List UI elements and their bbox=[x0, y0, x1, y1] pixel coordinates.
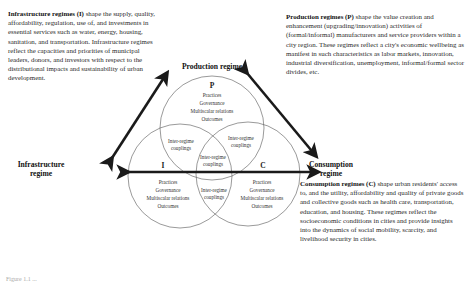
overlap-p-i: Inter-regime couplings bbox=[168, 138, 195, 151]
svg-text:Inter-regime: Inter-regime bbox=[168, 138, 195, 144]
overlap-i-p-c: Inter-regime couplings bbox=[200, 154, 227, 167]
svg-text:couplings: couplings bbox=[204, 194, 224, 200]
consumption-regime-label: Consumption regime bbox=[296, 160, 366, 178]
consumption-description: Consumption regimes (C) shape urban resi… bbox=[300, 179, 465, 243]
svg-text:couplings: couplings bbox=[231, 142, 251, 148]
svg-text:Practices: Practices bbox=[253, 179, 272, 185]
figure-caption: Figure 1.1 ... bbox=[6, 276, 37, 282]
svg-text:couplings: couplings bbox=[203, 161, 223, 167]
infrastructure-contents: Practices Governance Multiscalar relatio… bbox=[147, 179, 190, 209]
svg-text:Outcomes: Outcomes bbox=[251, 203, 272, 209]
svg-text:Governance: Governance bbox=[249, 187, 275, 193]
svg-text:Multiscalar relations: Multiscalar relations bbox=[191, 108, 234, 114]
letter-c: C bbox=[260, 161, 265, 170]
svg-text:Inter-regime: Inter-regime bbox=[201, 187, 228, 193]
overlap-p-c: Inter-regime couplings bbox=[228, 135, 255, 148]
svg-text:Practices: Practices bbox=[203, 92, 222, 98]
letter-i: I bbox=[162, 161, 165, 170]
overlap-i-c: Inter-regime couplings bbox=[201, 187, 228, 200]
svg-text:Multiscalar relations: Multiscalar relations bbox=[147, 195, 190, 201]
arrow-infra-production bbox=[112, 73, 167, 158]
svg-text:Outcomes: Outcomes bbox=[201, 116, 222, 122]
consumption-contents: Practices Governance Multiscalar relatio… bbox=[241, 179, 284, 209]
svg-text:Outcomes: Outcomes bbox=[157, 203, 178, 209]
production-contents: Practices Governance Multiscalar relatio… bbox=[191, 92, 234, 122]
infrastructure-description: Infrastructure regimes (I) shape the sup… bbox=[8, 9, 158, 83]
production-description: Production regimes (P) shape the value c… bbox=[286, 12, 464, 76]
letter-p: P bbox=[210, 81, 215, 90]
infrastructure-regime-label: Infrastructure regime bbox=[6, 160, 76, 178]
svg-text:Inter-regime: Inter-regime bbox=[200, 154, 227, 160]
svg-text:Governance: Governance bbox=[199, 100, 225, 106]
svg-text:Multiscalar relations: Multiscalar relations bbox=[241, 195, 284, 201]
svg-text:couplings: couplings bbox=[171, 145, 191, 151]
svg-text:Inter-regime: Inter-regime bbox=[228, 135, 255, 141]
arrow-production-consumption bbox=[247, 73, 316, 156]
production-regime-label: Production regime bbox=[160, 62, 264, 71]
svg-text:Practices: Practices bbox=[159, 179, 178, 185]
svg-text:Governance: Governance bbox=[155, 187, 181, 193]
